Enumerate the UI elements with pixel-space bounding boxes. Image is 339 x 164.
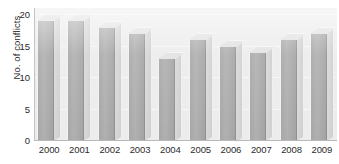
x-tick-label: 2007 [251, 145, 272, 155]
bar-side-face [175, 54, 182, 141]
y-tick-label: 5 [25, 105, 30, 115]
x-tick-label: 2009 [311, 145, 332, 155]
bar-2002 [98, 21, 115, 141]
bar-front-face [280, 40, 297, 141]
bar-2009 [310, 27, 327, 141]
bar-front-face [189, 40, 206, 141]
y-tick-label: 10 [19, 73, 30, 83]
x-tick-label: 2006 [221, 145, 242, 155]
bar-2004 [158, 52, 175, 141]
bar-2000 [37, 14, 54, 141]
x-tick-label: 2003 [130, 145, 151, 155]
x-tick-label: 2001 [69, 145, 90, 155]
x-tick-label: 2008 [281, 145, 302, 155]
x-tick-label: 2002 [99, 145, 120, 155]
bar-front-face [98, 28, 115, 141]
y-tick-label: 15 [19, 42, 30, 52]
bar-side-face [145, 29, 152, 141]
y-axis-line [34, 8, 35, 141]
bar-front-face [37, 21, 54, 141]
bar-side-face [266, 48, 273, 141]
bar-side-face [327, 29, 334, 141]
bar-front-face [249, 53, 266, 141]
bar-2007 [249, 46, 266, 141]
y-tick-label: 20 [19, 10, 30, 20]
bar-side-face [84, 16, 91, 141]
bar-front-face [67, 21, 84, 141]
y-tick-label: 0 [25, 136, 30, 146]
bar-2008 [280, 33, 297, 141]
bar-side-face [54, 16, 61, 141]
bar-side-face [115, 23, 122, 141]
plot-area [34, 8, 337, 141]
bar-side-face [297, 35, 304, 141]
y-axis-tick-labels: 05101520 [0, 0, 34, 164]
bar-2001 [67, 14, 84, 141]
bar-2005 [189, 33, 206, 141]
bar-series [34, 8, 337, 141]
bar-front-face [128, 34, 145, 141]
x-tick-label: 2000 [39, 145, 60, 155]
bar-front-face [219, 47, 236, 142]
bar-2003 [128, 27, 145, 141]
x-axis-tick-labels: 2000200120022003200420052006200720082009 [34, 145, 337, 161]
x-tick-label: 2004 [160, 145, 181, 155]
bar-2006 [219, 40, 236, 142]
x-tick-label: 2005 [190, 145, 211, 155]
bar-side-face [206, 35, 213, 141]
bar-front-face [158, 59, 175, 141]
bar-side-face [236, 41, 243, 141]
x-axis-line [34, 140, 337, 141]
bar-front-face [310, 34, 327, 141]
bar-chart: No. of conflicts 05101520 20002001200220… [0, 0, 339, 164]
